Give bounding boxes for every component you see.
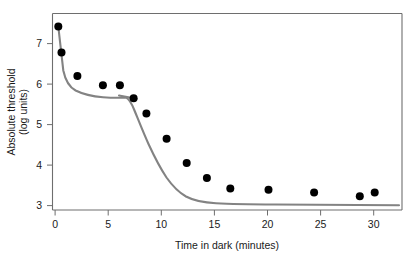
data-point xyxy=(142,110,150,118)
data-point-markers xyxy=(54,23,378,201)
y-tick-label-6: 6 xyxy=(36,78,42,90)
data-point xyxy=(163,135,171,143)
x-tick-label-15: 15 xyxy=(209,218,221,230)
x-tick-label-30: 30 xyxy=(368,218,380,230)
x-tick-label-25: 25 xyxy=(315,218,327,230)
data-point xyxy=(54,23,62,31)
y-tick-label-7: 7 xyxy=(36,37,42,49)
dark-adaptation-chart-figure: 7 6 5 4 3 0 5 10 15 20 25 30 Time in d xyxy=(0,0,413,262)
data-point xyxy=(99,81,107,89)
data-point xyxy=(130,94,138,102)
y-axis-title-line1: Absolute threshold xyxy=(5,68,17,155)
y-axis-title: Absolute threshold (log units) xyxy=(5,68,29,155)
plot-frame xyxy=(53,14,403,211)
x-tick-label-0: 0 xyxy=(52,218,58,230)
x-axis-ticks xyxy=(55,210,374,216)
data-point xyxy=(356,192,364,200)
y-tick-label-3: 3 xyxy=(36,199,42,211)
y-axis-title-line2: (log units) xyxy=(17,89,29,135)
data-point xyxy=(203,174,211,182)
dark-adaptation-curve xyxy=(58,27,399,206)
data-point xyxy=(58,48,66,56)
data-point xyxy=(265,186,273,194)
y-tick-label-5: 5 xyxy=(36,118,42,130)
x-tick-label-10: 10 xyxy=(155,218,167,230)
chart-canvas: 7 6 5 4 3 0 5 10 15 20 25 30 Time in d xyxy=(0,0,413,262)
x-axis-title: Time in dark (minutes) xyxy=(175,239,279,251)
x-tick-label-5: 5 xyxy=(105,218,111,230)
data-point xyxy=(226,185,234,193)
y-tick-label-4: 4 xyxy=(36,159,42,171)
data-point xyxy=(116,81,124,89)
data-point xyxy=(371,189,379,197)
data-point xyxy=(183,159,191,167)
data-point xyxy=(310,189,318,197)
y-axis-ticks xyxy=(47,44,53,206)
y-axis-tick-labels: 7 6 5 4 3 xyxy=(36,37,42,211)
x-tick-label-20: 20 xyxy=(262,218,274,230)
x-axis-tick-labels: 0 5 10 15 20 25 30 xyxy=(52,218,380,230)
data-point xyxy=(73,72,81,80)
